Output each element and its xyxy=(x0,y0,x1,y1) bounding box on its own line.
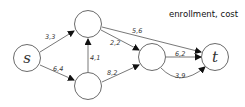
node-t: t xyxy=(202,44,229,71)
edge-b-a: 4,1 xyxy=(88,39,100,72)
edge-b-c: 8,2 xyxy=(102,65,139,82)
node-b xyxy=(75,73,102,100)
edge-s-b: 6,4 xyxy=(40,65,74,80)
edge-label-c-t-curved: 3,9 xyxy=(175,72,185,80)
node-label-s: s xyxy=(23,49,31,67)
flow-network-diagram: 3,3 6,4 4,1 2,2 5,6 8,2 6,2 3,9 s xyxy=(0,0,245,107)
edge-label-b-c: 8,2 xyxy=(107,69,117,77)
node-c xyxy=(139,44,166,71)
edge-c-t-curved: 3,9 xyxy=(161,67,205,80)
edge-label-s-b: 6,4 xyxy=(53,65,63,73)
edge-c-t: 6,2 xyxy=(166,50,201,58)
edge-label-a-c: 2,2 xyxy=(110,39,120,47)
node-label-t: t xyxy=(212,48,219,66)
node-s: s xyxy=(14,45,41,72)
edge-label-b-a: 4,1 xyxy=(90,54,100,62)
node-a xyxy=(75,11,102,38)
diagram-title: enrollment, cost xyxy=(169,9,239,19)
edge-label-a-t: 5,6 xyxy=(132,27,142,35)
edge-label-c-t: 6,2 xyxy=(175,50,185,58)
edge-s-a: 3,3 xyxy=(40,31,74,52)
edge-label-s-a: 3,3 xyxy=(45,33,55,41)
